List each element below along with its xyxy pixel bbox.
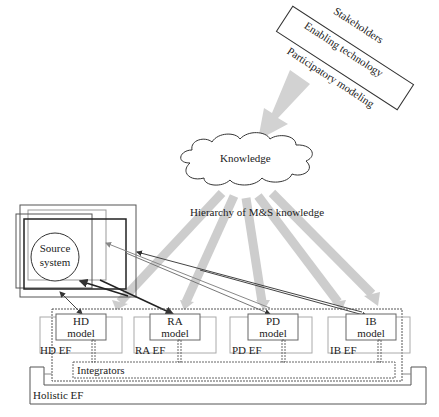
pd-model-label-2: model (248, 328, 298, 339)
ib-model-label-1: IB (346, 316, 396, 327)
participatory-arrow (258, 70, 310, 140)
knowledge-label: Knowledge (220, 153, 271, 164)
ra-ef-label: RA EF (135, 345, 165, 356)
hd-model-label-2: model (56, 328, 106, 339)
ib-model-label-2: model (346, 328, 396, 339)
hierarchy-arrowheads (112, 292, 380, 310)
hierarchy-label: Hierarchy of M&S knowledge (190, 207, 324, 218)
source-system-frames (16, 205, 136, 297)
pd-model-label-1: PD (248, 316, 298, 327)
source-system-label-1: Source (35, 243, 75, 254)
integrators-label: Integrators (77, 365, 125, 376)
hd-model-label-1: HD (56, 316, 106, 327)
ib-ef-label: IB EF (330, 345, 357, 356)
ra-model-label-2: model (150, 328, 200, 339)
pd-ef-label: PD EF (232, 345, 262, 356)
hd-ef-label: HD EF (40, 345, 71, 356)
ra-model-label-1: RA (150, 316, 200, 327)
source-system-label-2: system (35, 257, 75, 268)
holistic-ef-label: Holistic EF (33, 390, 83, 401)
